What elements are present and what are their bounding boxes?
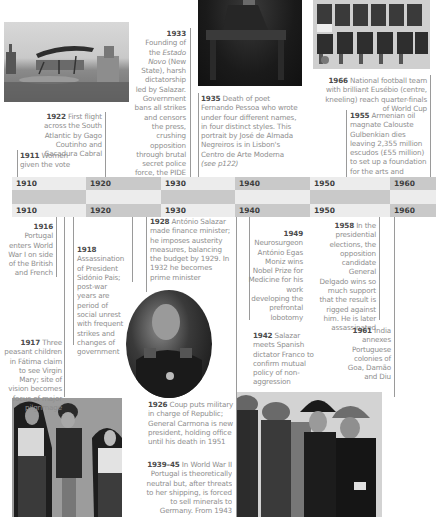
decade-bottom-1930: 1930 — [161, 204, 235, 217]
band-mid-1960 — [390, 190, 436, 204]
band-mid-1910 — [12, 190, 86, 204]
band-mid-1950 — [310, 190, 390, 204]
decade-top-1930: 1930 — [161, 177, 235, 190]
year-1917: 1917 — [21, 338, 40, 347]
decade-bottom-1940: 1940 — [235, 204, 310, 217]
entry-1942: 1942 Salazar meets Spanish dictator Fran… — [253, 331, 318, 387]
decade-top-1920: 1920 — [86, 177, 161, 190]
year-1955: 1955 — [350, 111, 369, 120]
marker-1918 — [73, 217, 74, 345]
entry-1926: 1926 Coup puts military in charge of Rep… — [148, 400, 234, 446]
entry-1949: 1949Neurosurgeon António Egas Moniz wins… — [248, 229, 303, 322]
band-mid-1940 — [235, 190, 310, 204]
marker-1928 — [146, 217, 147, 292]
fatima-children-photo — [12, 398, 122, 517]
entry-1961: 1961 India annexes Portuguese colonies o… — [345, 326, 391, 382]
military-figure-icon — [126, 290, 212, 398]
seaplane-icon — [4, 22, 129, 102]
entry-1933: 1933 Founding of the Estado Novo (New St… — [134, 29, 186, 178]
entry-1966: 1966 National football team with brillia… — [320, 76, 427, 113]
decade-bottom-1950: 1950 — [310, 204, 390, 217]
year-1922: 1922 — [46, 112, 65, 121]
marker-1933 — [190, 28, 191, 177]
year-1928: 1928 — [150, 217, 169, 226]
marker-1935 — [198, 93, 199, 177]
decade-bottom-1920: 1920 — [86, 204, 161, 217]
seaplane-photo — [4, 22, 129, 102]
salazar-franco-photo — [236, 392, 382, 517]
year-1942: 1942 — [253, 331, 272, 340]
entry-1918: 1918Assassination of President Sidónio P… — [77, 245, 127, 357]
year-1949: 1949 — [248, 229, 303, 238]
men-in-hats-icon — [236, 392, 382, 517]
year-1961: 1961 — [353, 326, 372, 335]
year-1933: 1933 — [167, 29, 186, 38]
team-players-icon — [313, 0, 430, 69]
year-1958: 1958 — [335, 221, 354, 230]
entry-1928: 1928 António Salazar made finance minist… — [150, 217, 232, 282]
marker-1922 — [105, 112, 106, 177]
marker-1926 — [132, 217, 133, 282]
marker-1917 — [64, 217, 65, 397]
children-figures-icon — [12, 398, 122, 517]
decade-bottom-1960: 1960 — [390, 204, 436, 217]
entry-1955: 1955 Armenian oil magnate Calouste Gulbe… — [350, 111, 432, 185]
marker-1911 — [17, 150, 18, 177]
year-1935: 1935 — [201, 94, 220, 103]
year-1918: 1918 — [77, 245, 127, 254]
band-mid-1920 — [86, 190, 161, 204]
band-mid-1930 — [161, 190, 235, 204]
decade-top-1910: 1910 — [12, 177, 86, 190]
entry-1939-45: 1939–45 In World War II Portugal is theo… — [140, 460, 232, 517]
decade-top-1940: 1940 — [235, 177, 310, 190]
marker-1916 — [56, 217, 57, 277]
decade-top-1950: 1950 — [310, 177, 390, 190]
year-1939-45: 1939–45 — [147, 460, 180, 469]
football-team-photo — [313, 0, 430, 69]
year-1926: 1926 — [148, 400, 167, 409]
marker-1958 — [379, 217, 380, 320]
entry-1935: 1935 Death of poet Fernando Pessoa who w… — [201, 94, 299, 168]
page-reference: (see p122) — [201, 159, 238, 168]
entry-1916: 1916Portugal enters World War I on side … — [4, 222, 53, 278]
pessoa-portrait — [198, 0, 302, 86]
year-1916: 1916 — [4, 222, 53, 231]
salazar-oval-portrait — [126, 290, 212, 398]
portrait-figure-icon — [198, 0, 302, 86]
entry-1958: 1958 In the presidential elections, the … — [318, 221, 376, 333]
marker-1942 — [236, 217, 237, 517]
marker-1955 — [346, 110, 347, 177]
decade-top-1960: 1960 — [390, 177, 436, 190]
entry-1922: 1922 First flight across the South Atlan… — [30, 112, 102, 158]
year-1966: 1966 — [328, 76, 347, 85]
marker-1961 — [394, 217, 395, 397]
entry-1917: 1917 Three peasant children in Fátima cl… — [4, 338, 62, 412]
decade-bottom-1910: 1910 — [12, 204, 86, 217]
